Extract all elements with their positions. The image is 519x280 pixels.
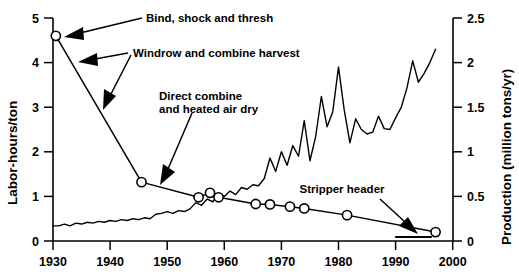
left-tick-1: 1: [32, 190, 39, 204]
data-point-marker: [300, 204, 309, 213]
data-point-marker: [265, 200, 274, 209]
figure-canvas: 5 4 3 2 1 0 Labor-hours/ton 1930 1940 19…: [0, 0, 519, 280]
right-tick-1p5: 1.5: [467, 101, 484, 115]
data-point-marker: [342, 211, 351, 220]
chart-svg: 5 4 3 2 1 0 Labor-hours/ton 1930 1940 19…: [0, 0, 519, 280]
left-axis: 5 4 3 2 1 0: [32, 12, 53, 249]
left-tick-0: 0: [32, 235, 39, 249]
x-tick-2000: 2000: [439, 255, 467, 269]
annotation-direct-combine: Direct combine and heated air dry: [159, 90, 259, 185]
annotation-bind-shock-thresh: Bind, shock and thresh: [64, 12, 273, 40]
x-tick-1960: 1960: [210, 255, 238, 269]
data-point-marker: [194, 193, 203, 202]
left-tick-2: 2: [32, 145, 39, 159]
bottom-axis: 1930 1940 1950 1960 1970 1980 1990 2000: [39, 241, 467, 269]
data-point-marker: [137, 178, 146, 187]
data-point-marker: [431, 227, 440, 236]
annotation-bind-shock-thresh-label: Bind, shock and thresh: [146, 12, 273, 24]
x-tick-1990: 1990: [382, 255, 410, 269]
data-point-marker: [251, 199, 260, 208]
labor-hours-series: [51, 31, 440, 236]
left-tick-5: 5: [32, 12, 39, 26]
left-tick-3: 3: [32, 101, 39, 115]
data-point-marker: [205, 188, 214, 197]
left-tick-4: 4: [32, 56, 39, 70]
right-tick-0: 0: [467, 235, 474, 249]
x-tick-1930: 1930: [39, 255, 67, 269]
annotation-direct-combine-line1: Direct combine: [159, 90, 242, 102]
right-tick-1: 1: [467, 145, 474, 159]
annotation-direct-combine-line2: and heated air dry: [159, 103, 259, 115]
right-axis-title: Production (million tons/yr): [499, 69, 514, 245]
x-tick-1970: 1970: [267, 255, 295, 269]
right-tick-2p5: 2.5: [467, 12, 484, 26]
data-point-marker: [214, 193, 223, 202]
production-series: [53, 49, 436, 226]
left-axis-title: Labor-hours/ton: [5, 101, 20, 205]
x-tick-1950: 1950: [153, 255, 181, 269]
annotation-stripper-header-label: Stripper header: [300, 183, 386, 195]
right-tick-0p5: 0.5: [467, 190, 484, 204]
data-point-marker: [285, 202, 294, 211]
right-axis: 2.5 2 1.5 1 0.5 0: [453, 12, 484, 249]
annotation-stripper-header: Stripper header: [300, 183, 419, 234]
x-tick-1940: 1940: [96, 255, 124, 269]
data-point-marker: [51, 31, 60, 40]
x-tick-1980: 1980: [325, 255, 353, 269]
annotation-windrow-combine-label: Windrow and combine harvest: [133, 47, 300, 59]
right-tick-2: 2: [467, 56, 474, 70]
